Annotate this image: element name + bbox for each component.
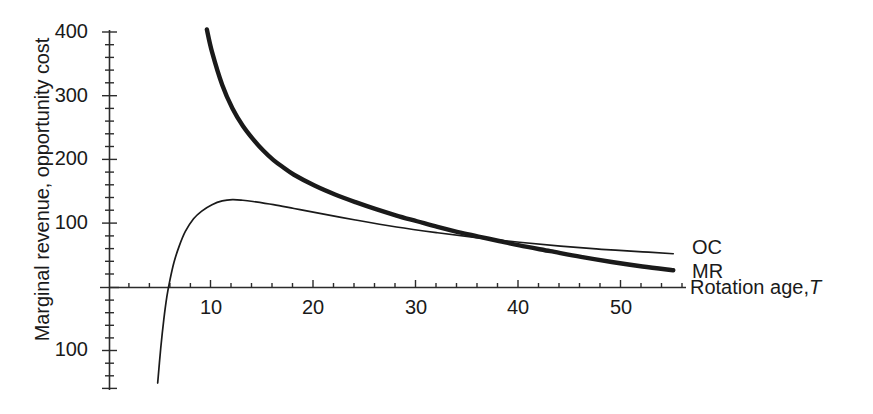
x-tick-label-20: 20	[283, 296, 343, 319]
series-label-oc: OC	[692, 236, 722, 259]
y-tick-label-100: 100	[16, 211, 88, 234]
chart-figure: Marginal revenue, opportunity cost 400 3…	[0, 0, 873, 414]
y-axis-title: Marginal revenue, opportunity cost	[31, 10, 54, 370]
y-tick-label-200: 200	[16, 147, 88, 170]
series-label-mr: MR	[692, 260, 723, 283]
curve-oc	[207, 30, 673, 271]
y-tick-label-400: 400	[16, 20, 88, 43]
x-tick-label-30: 30	[386, 296, 446, 319]
y-tick-label-neg100: 100	[16, 338, 88, 361]
plot-canvas	[0, 0, 873, 414]
x-tick-label-50: 50	[591, 296, 651, 319]
y-tick-label-300: 300	[16, 84, 88, 107]
curve-mr	[158, 200, 674, 383]
axis-lines	[109, 30, 686, 390]
x-axis-title-variable: T	[809, 276, 821, 298]
x-tick-label-10: 10	[181, 296, 241, 319]
x-axis-ticks	[129, 280, 682, 288]
x-tick-label-40: 40	[488, 296, 548, 319]
